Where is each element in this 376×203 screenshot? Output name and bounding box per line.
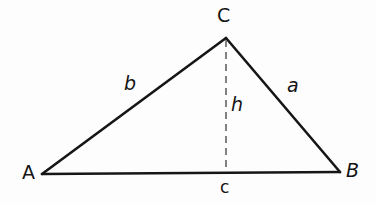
side-label-b: b [124,74,136,93]
vertex-label-b: B [346,161,359,180]
triangle-side-a-line [226,38,340,172]
side-label-a: a [287,76,299,95]
vertex-label-c: C [217,6,230,25]
vertex-label-a: A [22,163,35,182]
side-label-c: c [220,179,229,196]
triangle-base-line [42,172,340,174]
triangle-side-b-line [42,38,226,174]
triangle-figure [0,0,376,203]
altitude-label-h: h [231,95,243,114]
diagram-canvas: A B C b a c h [0,0,376,203]
